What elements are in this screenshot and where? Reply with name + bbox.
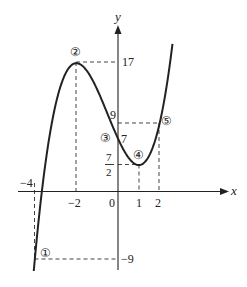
- x-tick-neg4: −4: [20, 176, 33, 190]
- axes: [18, 30, 224, 270]
- point-marker-4: ④: [133, 148, 144, 162]
- x-axis-arrow-icon: [220, 188, 229, 195]
- y-tick-17: 17: [122, 55, 134, 69]
- y-axis-arrow-icon: [115, 25, 122, 34]
- point-marker-5: ⑤: [161, 114, 172, 128]
- y-tick-9: 9: [110, 108, 116, 122]
- origin-label: 0: [109, 196, 115, 210]
- fraction-denominator: 2: [106, 166, 112, 178]
- point-marker-3: ③: [100, 131, 111, 145]
- x-tick-1: 1: [136, 196, 142, 210]
- function-curve: [34, 44, 173, 271]
- point-marker-2: ②: [70, 45, 81, 59]
- y-tick-7: 7: [121, 132, 127, 146]
- y-tick-7-over-2: 7 2: [105, 151, 114, 178]
- y-axis-label: y: [113, 9, 121, 24]
- fraction-numerator: 7: [106, 151, 112, 163]
- y-tick-neg9: −9: [121, 252, 134, 266]
- x-tick-neg2: −2: [68, 196, 81, 210]
- point-marker-1: ①: [40, 246, 51, 260]
- function-graph-diagram: y x 0 −4 −2 1 2 17 9 7 7 2 −9 ① ② ③ ④ ⑤: [0, 0, 247, 287]
- x-tick-2: 2: [155, 196, 161, 210]
- x-axis-label: x: [230, 183, 237, 198]
